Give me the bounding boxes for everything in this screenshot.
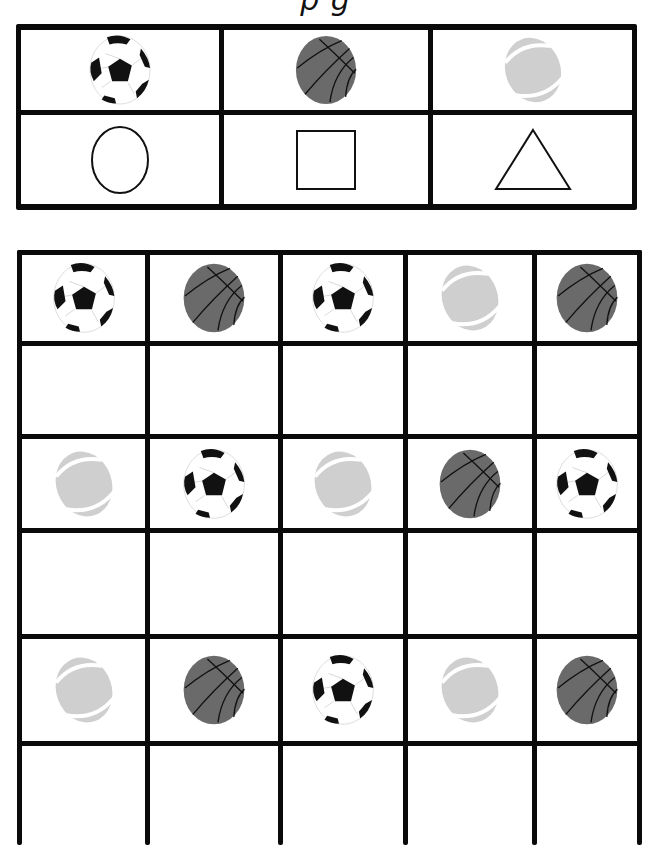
grid-rugby-ball-icon xyxy=(283,439,403,528)
grid-rugby-ball-icon xyxy=(408,255,532,341)
answer-cell[interactable] xyxy=(408,746,532,845)
worksheet-title-cutoff: p g xyxy=(0,0,651,17)
answer-cell[interactable] xyxy=(150,746,278,845)
answer-cell[interactable] xyxy=(22,746,145,845)
answer-cell[interactable] xyxy=(537,346,637,434)
answer-cell[interactable] xyxy=(283,746,403,845)
answer-cell[interactable] xyxy=(22,346,145,434)
grid-basketball-ball-icon xyxy=(150,639,278,741)
grid-basketball-ball-icon xyxy=(150,255,278,341)
answer-cell[interactable] xyxy=(283,346,403,434)
grid-rugby-ball-icon xyxy=(22,439,145,528)
grid-basketball-ball-icon xyxy=(537,639,637,741)
key-table-right-border xyxy=(632,27,637,207)
key-basketball-ball-icon xyxy=(224,30,428,110)
grid-rugby-ball-icon xyxy=(22,639,145,741)
key-soccer-ball-icon xyxy=(21,30,219,110)
answer-cell[interactable] xyxy=(150,346,278,434)
answer-cell[interactable] xyxy=(537,746,637,845)
answer-cell[interactable] xyxy=(22,533,145,634)
grid-soccer-ball-icon xyxy=(283,255,403,341)
grid-vline-5 xyxy=(637,250,642,845)
key-circle-shape-icon xyxy=(21,115,219,204)
answer-cell[interactable] xyxy=(283,533,403,634)
key-square-shape-icon xyxy=(224,115,428,204)
key-triangle-shape-icon xyxy=(433,115,632,204)
grid-soccer-ball-icon xyxy=(150,439,278,528)
answer-cell[interactable] xyxy=(150,533,278,634)
grid-soccer-ball-icon xyxy=(22,255,145,341)
grid-soccer-ball-icon xyxy=(283,639,403,741)
grid-basketball-ball-icon xyxy=(537,255,637,341)
key-table-bottom-border xyxy=(16,204,637,210)
key-rugby-ball-icon xyxy=(433,30,632,110)
grid-rugby-ball-icon xyxy=(408,639,532,741)
grid-soccer-ball-icon xyxy=(537,439,637,528)
answer-cell[interactable] xyxy=(408,533,532,634)
answer-cell[interactable] xyxy=(537,533,637,634)
grid-basketball-ball-icon xyxy=(408,439,532,528)
answer-cell[interactable] xyxy=(408,346,532,434)
